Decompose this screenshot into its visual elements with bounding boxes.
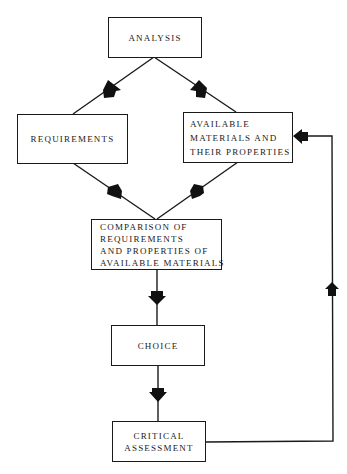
node-comparison: COMPARISON OF REQUIREMENTS AND PROPERTIE… [91,219,222,270]
arrowhead-icon [325,282,339,296]
node-label: AVAILABLE [190,118,250,130]
node-label: AVAILABLE MATERIALS [100,257,225,269]
node-available-materials: AVAILABLE MATERIALS AND THEIR PROPERTIES [183,112,293,163]
node-choice: CHOICE [111,325,205,366]
node-critical-assessment: CRITICAL ASSESSMENT [112,421,206,462]
node-requirements: REQUIREMENTS [17,114,128,164]
node-label: CHOICE [138,340,179,352]
arrowhead-icon [190,184,204,199]
node-label: COMPARISON OF [100,221,188,233]
node-label: REQUIREMENTS [31,133,115,145]
node-analysis: ANALYSIS [108,17,202,58]
arrowhead-icon [149,388,167,402]
arrowhead-icon [107,184,122,199]
arrowhead-icon [148,291,166,305]
node-label: REQUIREMENTS [100,233,184,245]
node-label: AND PROPERTIES OF [100,245,208,257]
node-label: MATERIALS AND [190,132,277,144]
node-label: ANALYSIS [128,32,181,44]
node-label: ASSESSMENT [124,442,194,454]
node-label: THEIR PROPERTIES [190,146,290,158]
node-label: CRITICAL [133,430,184,442]
arrowhead-icon [293,129,308,144]
